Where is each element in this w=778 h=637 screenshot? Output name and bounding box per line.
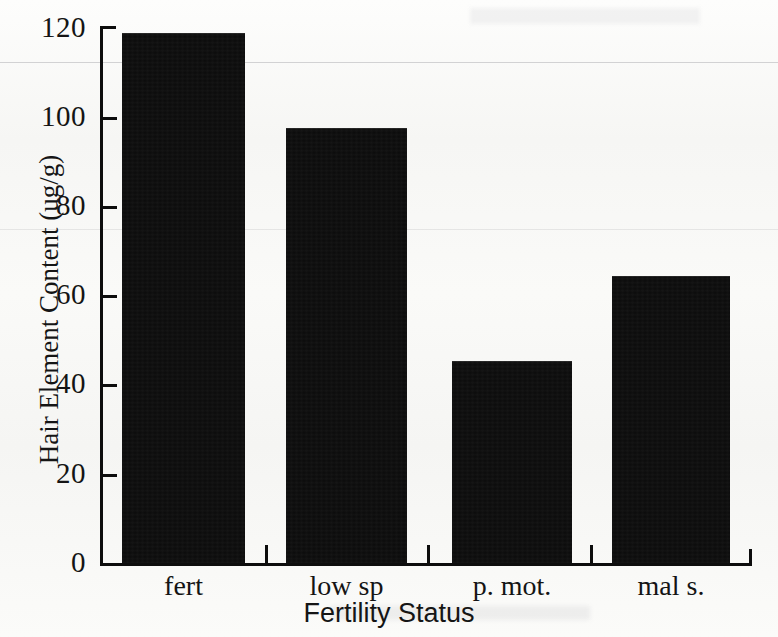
x-axis-title: Fertility Status	[0, 600, 778, 627]
x-tick-label-fert: fert	[122, 572, 245, 600]
x-axis-end-cap	[749, 549, 752, 566]
x-axis-line	[100, 563, 752, 566]
y-tick-100	[100, 117, 117, 120]
x-tick-label-mal-s: mal s.	[612, 572, 730, 600]
x-tick-label-p-mot: p. mot.	[452, 572, 572, 600]
scan-artifact-smudge-top-right	[470, 8, 700, 24]
x-tick-2	[427, 545, 430, 563]
bar-low-sp	[286, 128, 407, 563]
y-tick-label-0: 0	[0, 548, 86, 577]
y-tick-label-120: 120	[0, 13, 86, 42]
y-tick-80	[100, 206, 117, 209]
y-tick-60	[100, 295, 117, 298]
chart-figure: 0 20 40 60 80 100 120 fert low sp p. mot…	[0, 0, 778, 637]
scan-artifact-line-top	[0, 62, 778, 63]
y-axis-title: Hair Element Content (ug/g)	[36, 75, 63, 545]
x-tick-3	[590, 545, 593, 563]
bar-mal-s	[612, 276, 730, 563]
y-tick-20	[100, 474, 117, 477]
y-axis-top-cap	[100, 26, 116, 29]
bar-fert	[122, 33, 245, 563]
bar-p-mot	[452, 361, 572, 563]
y-tick-0	[100, 563, 117, 566]
x-tick-1	[265, 545, 268, 563]
x-tick-label-low-sp: low sp	[286, 572, 407, 600]
y-tick-40	[100, 384, 117, 387]
